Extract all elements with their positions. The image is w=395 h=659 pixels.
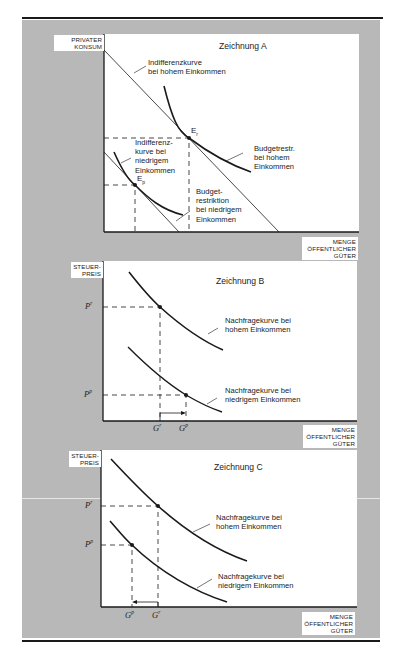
note-high-b: Nachfragekurve bei hohem Einkommen bbox=[225, 316, 291, 334]
tick-g-low-b: Gp bbox=[179, 422, 188, 433]
xlabel-line: GÜTER bbox=[304, 252, 356, 259]
tick-sup: r bbox=[158, 609, 160, 615]
point-high-c bbox=[156, 504, 160, 508]
chart-a-title: Zeichnung A bbox=[219, 41, 267, 51]
chart-c-title: Zeichnung C bbox=[214, 462, 263, 472]
tick-sup: p bbox=[89, 388, 92, 394]
chart-c-ylabel: STEUER- PREIS bbox=[69, 451, 101, 467]
chart-a-ylabel: PRIVATER KONSUM bbox=[54, 35, 104, 51]
tick-g-high-b: Gr bbox=[153, 422, 161, 433]
tick-p-high-b: Pr bbox=[85, 300, 92, 311]
label-er: Er bbox=[191, 126, 198, 139]
tick-g-low-c: Gp bbox=[125, 609, 134, 620]
note-budget-high: Budgetrestr. bei hohem Einkommen bbox=[254, 144, 295, 172]
tick-g-high-c: Gr bbox=[152, 609, 160, 620]
chart-c-xlabel: MENGE ÖFFENTLICHER GÜTER bbox=[302, 612, 355, 635]
tick-sup: r bbox=[90, 499, 92, 505]
figure-graphics bbox=[0, 0, 395, 659]
ylabel-line: PRIVATER bbox=[56, 36, 102, 43]
chart-a-xlabel: MENGE ÖFFENTLICHER GÜTER bbox=[302, 237, 358, 260]
point-low-c bbox=[130, 543, 134, 547]
point-low-b bbox=[184, 393, 188, 397]
note-high-c: Nachfragekurve bei hohem Einkommen bbox=[216, 513, 282, 531]
chart-b-xlabel: MENGE ÖFFENTLICHER GÜTER bbox=[303, 425, 357, 448]
xlabel-line: MENGE bbox=[304, 613, 353, 620]
note-low-b: Nachfragekurve bei niedrigem Einkommen bbox=[225, 386, 301, 404]
note-indiff-low: Indifferenz- kurve bei niedrigem Einkomm… bbox=[135, 138, 175, 175]
xlabel-line: GÜTER bbox=[304, 627, 353, 634]
tick-sup: r bbox=[159, 422, 161, 428]
ylabel-line: STEUER- bbox=[71, 452, 99, 459]
tick-sup: p bbox=[185, 422, 188, 428]
label-ep: Ep bbox=[137, 174, 145, 187]
ep-sub: p bbox=[142, 179, 145, 185]
chart-b-ylabel: STEUER- PREIS bbox=[71, 262, 103, 278]
chart-b-title: Zeichnung B bbox=[216, 276, 264, 286]
ylabel-line: PREIS bbox=[73, 270, 101, 277]
xlabel-line: GÜTER bbox=[305, 440, 355, 447]
ylabel-line: PREIS bbox=[71, 459, 99, 466]
xlabel-line: ÖFFENTLICHER bbox=[304, 620, 353, 627]
tick-p-low-b: Pp bbox=[84, 388, 92, 399]
tick-sup: p bbox=[90, 538, 93, 544]
xlabel-line: MENGE bbox=[304, 238, 356, 245]
point-high-b bbox=[158, 305, 162, 309]
tick-sup: p bbox=[131, 609, 134, 615]
tick-p-low-c: Pp bbox=[85, 538, 93, 549]
tick-p-high-c: Pr bbox=[85, 499, 92, 510]
xlabel-line: MENGE bbox=[305, 426, 355, 433]
ylabel-line: STEUER- bbox=[73, 263, 101, 270]
note-low-c: Nachfragekurve bei niedrigem Einkommen bbox=[218, 572, 294, 590]
er-sub: r bbox=[196, 131, 198, 137]
tick-sup: r bbox=[90, 300, 92, 306]
ylabel-line: KONSUM bbox=[56, 43, 102, 50]
note-indiff-high: Indifferenzkurve bei hohem Einkommen bbox=[148, 58, 226, 76]
xlabel-line: ÖFFENTLICHER bbox=[305, 433, 355, 440]
note-budget-low: Budget- restriktion bei niedrigem Einkom… bbox=[196, 187, 242, 224]
xlabel-line: ÖFFENTLICHER bbox=[304, 245, 356, 252]
